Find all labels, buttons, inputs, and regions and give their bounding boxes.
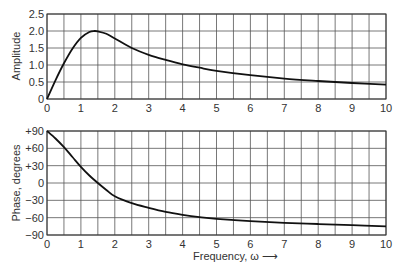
x-tick-label: 10 (380, 238, 392, 250)
x-tick-label: 2 (112, 238, 118, 250)
y-tick-label: 0 (38, 177, 44, 189)
y-tick-label: 1.5 (29, 42, 44, 54)
x-tick-label: 7 (281, 102, 287, 114)
y-tick-label: +30 (25, 160, 44, 172)
x-tick-label: 3 (146, 102, 152, 114)
amplitude-phase-chart: 01234567891000.51.01.52.02.5 01234567891… (0, 0, 405, 266)
x-tick-label: 8 (315, 102, 321, 114)
frequency-axis-label: Frequency, ω ⟶ (193, 250, 278, 262)
y-tick-label: 1.0 (29, 59, 44, 71)
y-tick-label: −30 (25, 194, 44, 206)
phase-axis-label: Phase, degrees (10, 144, 22, 222)
y-tick-label: 2.0 (29, 25, 44, 37)
amplitude-plot: 01234567891000.51.01.52.02.5 (29, 8, 392, 114)
phase-plot: 012345678910−90−60−300+30+60+90 (25, 125, 392, 250)
x-tick-label: 8 (315, 238, 321, 250)
y-tick-label: 0 (38, 93, 44, 105)
y-tick-label: −90 (25, 229, 44, 241)
x-tick-label: 1 (78, 102, 84, 114)
x-tick-label: 5 (213, 102, 219, 114)
x-tick-label: 3 (146, 238, 152, 250)
x-tick-label: 4 (180, 238, 186, 250)
x-tick-label: 7 (281, 238, 287, 250)
x-tick-label: 9 (349, 102, 355, 114)
y-tick-label: 0.5 (29, 76, 44, 88)
y-tick-label: −60 (25, 212, 44, 224)
x-tick-label: 6 (247, 102, 253, 114)
x-tick-label: 9 (349, 238, 355, 250)
x-tick-label: 1 (78, 238, 84, 250)
x-tick-label: 10 (380, 102, 392, 114)
x-tick-label: 0 (44, 102, 50, 114)
y-tick-label: +60 (25, 142, 44, 154)
amplitude-axis-label: Amplitude (10, 32, 22, 81)
y-tick-label: +90 (25, 125, 44, 137)
x-tick-label: 4 (180, 102, 186, 114)
x-tick-label: 2 (112, 102, 118, 114)
x-tick-label: 6 (247, 238, 253, 250)
x-tick-label: 0 (44, 238, 50, 250)
y-tick-label: 2.5 (29, 8, 44, 20)
x-tick-label: 5 (213, 238, 219, 250)
